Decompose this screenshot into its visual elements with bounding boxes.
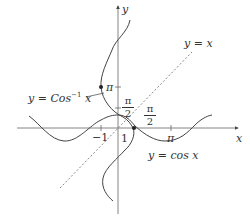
point-neg1-pi	[99, 85, 103, 89]
x-tick-label-neg1: −1	[92, 132, 108, 143]
pi-over-2-y-num: π	[122, 96, 134, 108]
pi-over-2-y-den: 2	[122, 108, 134, 119]
label-cos: y = cos x	[148, 150, 199, 161]
x-tick-label-1: 1	[121, 133, 128, 144]
pi-over-2-x-num: π	[144, 104, 156, 116]
label-y-equals-x: y = x	[184, 38, 213, 49]
label-arccos-prefix: y = Cos	[28, 92, 71, 105]
label-arccos-suffix: x	[81, 92, 91, 105]
x-axis-label: x	[236, 133, 242, 144]
line-y-equals-x	[60, 52, 192, 188]
label-arccos-sup: −1	[71, 91, 81, 99]
pi-over-2-x-den: 2	[144, 116, 156, 127]
y-tick-label-pi: π	[106, 82, 113, 93]
y-axis-label: y	[122, 4, 128, 15]
label-arccos: y = Cos−1 x	[28, 92, 91, 104]
label-cos-text: y = cos x	[148, 149, 199, 162]
pi-over-2-y-label: π 2	[122, 96, 134, 119]
label-y-equals-x-text: y = x	[184, 37, 213, 50]
graph-diagram: y x −1 1 π π π 2 π 2 y = x y = cos x y =…	[0, 0, 250, 218]
point-1-0	[132, 126, 136, 130]
x-tick-label-pi: π	[167, 133, 174, 144]
pi-over-2-x-label: π 2	[144, 104, 156, 127]
